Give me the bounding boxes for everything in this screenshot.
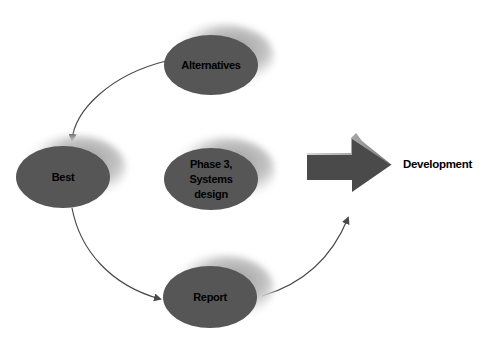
node-label-alternatives: Alternatives	[181, 59, 241, 71]
edge-report-to-development	[262, 218, 348, 296]
development-arrow	[307, 133, 392, 192]
node-best: Best	[16, 135, 126, 208]
node-report: Report	[163, 255, 274, 328]
node-alternatives: Alternatives	[164, 24, 274, 95]
edge-best-to-report	[72, 208, 160, 299]
node-label-phase3-line1: Phase 3,	[190, 158, 232, 170]
node-label-best: Best	[52, 171, 75, 183]
node-phase3: Phase 3, Systems design	[164, 137, 275, 210]
edge-alternatives-to-best	[72, 61, 166, 140]
node-label-phase3-line3: design	[194, 188, 228, 200]
arrow-body	[307, 139, 391, 192]
node-label-phase3-line2: Systems	[189, 173, 232, 185]
target-label-development: Development	[403, 158, 472, 170]
node-label-report: Report	[193, 291, 227, 303]
cycle-diagram: Alternatives Best Phase 3, Systems desig…	[0, 0, 482, 343]
